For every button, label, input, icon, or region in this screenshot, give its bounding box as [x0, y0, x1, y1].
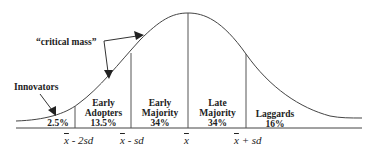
arrowhead-icon	[104, 70, 113, 79]
segment-label: Majority	[132, 108, 188, 118]
critical-mass-arrow-2	[104, 41, 108, 72]
axis-label-mean: x	[184, 134, 189, 146]
segment-percent: 34%	[132, 118, 188, 128]
axis-label-mean-minus-sd: x - sd	[120, 134, 144, 146]
segment-label: Early	[132, 98, 188, 108]
innovators-arrow	[40, 94, 52, 110]
axis-label-mean-minus-2sd: x - 2sd	[64, 134, 93, 146]
innovators-label: Innovators	[14, 82, 58, 92]
segment-label: Adopters	[76, 108, 131, 118]
segment-percent: 2.5%	[40, 118, 76, 128]
axis-label-mean-plus-sd: x + sd	[234, 134, 262, 146]
critical-mass-label: “critical mass”	[36, 37, 96, 47]
arrowhead-icon	[134, 31, 144, 40]
segment-label: Late	[189, 98, 246, 108]
segment-label: Majority	[189, 108, 246, 118]
segment-innovators: 2.5%	[40, 118, 76, 128]
segment-late-majority: Late Majority 34%	[189, 98, 246, 128]
critical-mass-arrow-1	[104, 36, 137, 41]
segment-percent: 34%	[189, 118, 246, 128]
bell-curve-diagram	[0, 0, 375, 154]
segment-laggards: Laggards 16%	[247, 109, 303, 129]
segment-label: Early	[76, 98, 131, 108]
segment-early-majority: Early Majority 34%	[132, 98, 188, 128]
segment-early-adopters: Early Adopters 13.5%	[76, 98, 131, 128]
arrowhead-icon	[48, 106, 56, 116]
segment-percent: 13.5%	[76, 118, 131, 128]
segment-label: Laggards	[247, 109, 303, 119]
segment-percent: 16%	[247, 119, 303, 129]
